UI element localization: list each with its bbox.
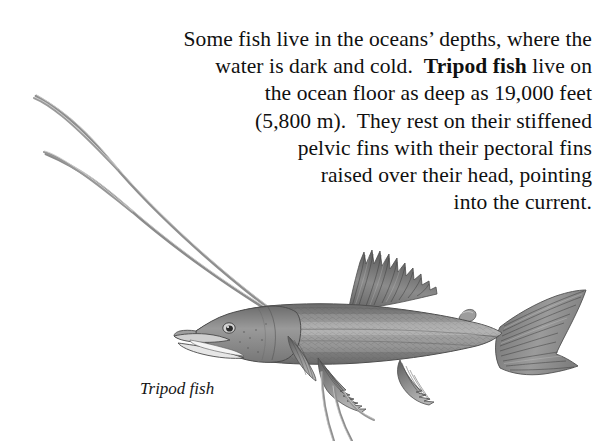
anal-fin — [398, 360, 434, 405]
text-line-6: raised over their head, pointing — [321, 163, 592, 187]
fish-eye — [223, 323, 235, 333]
text-line-7: into the current. — [454, 190, 592, 214]
text-line-5: pelvic fins with their pectoral fins — [298, 136, 592, 160]
text-line-3: the ocean floor as deep as 19,000 feet — [265, 81, 592, 105]
text-line-1: Some fish live in the oceans’ depths, wh… — [183, 27, 592, 51]
text-line-2-suffix: live on — [527, 54, 592, 78]
emphasis-tripod-fish: Tripod fish — [424, 54, 527, 78]
caudal-fin — [496, 290, 587, 375]
dorsal-fin — [348, 250, 437, 312]
text-line-2-prefix: water is dark and cold. — [215, 54, 423, 78]
body-paragraph: Some fish live in the oceans’ depths, wh… — [60, 26, 592, 216]
pelvic-fin — [318, 358, 374, 441]
fish-head — [174, 306, 301, 362]
illustrated-page: Some fish live in the oceans’ depths, wh… — [0, 0, 610, 441]
text-line-4: (5,800 m). They rest on their stiffened — [255, 109, 592, 133]
figure-caption: Tripod fish — [140, 379, 214, 399]
